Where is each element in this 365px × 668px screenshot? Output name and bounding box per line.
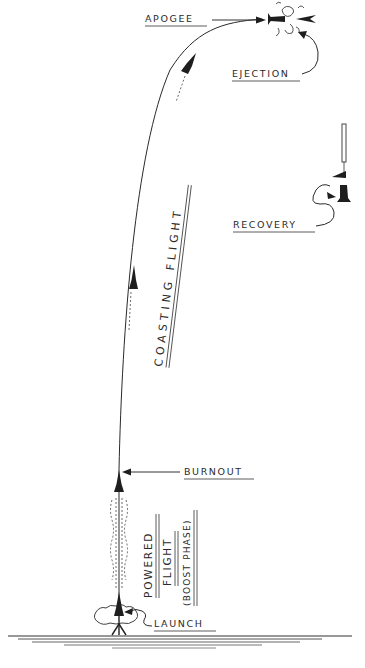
coasting-flight-label-group: COASTING FLIGHT bbox=[152, 183, 191, 368]
powered-label: POWERED bbox=[142, 532, 154, 598]
recovery-arrowhead-icon bbox=[327, 192, 336, 199]
ejection-arrow bbox=[302, 34, 318, 74]
launch-label: LAUNCH bbox=[154, 618, 203, 629]
rocket-upper-icon bbox=[176, 53, 196, 102]
ground-lines bbox=[8, 636, 352, 648]
rocket-burnout-icon bbox=[114, 470, 124, 492]
recovery-label: RECOVERY bbox=[233, 219, 297, 230]
boost-phase-label: (BOOST PHASE) bbox=[182, 519, 192, 606]
launch-arrowhead-icon bbox=[124, 608, 133, 615]
burnout-label: BURNOUT bbox=[184, 466, 243, 477]
burnout-arrowhead-icon bbox=[122, 469, 131, 476]
launch-arrow bbox=[130, 610, 152, 627]
launch-pad bbox=[112, 616, 126, 635]
coasting-flight-label: COASTING FLIGHT bbox=[152, 207, 184, 367]
powered-label-group: POWERED bbox=[142, 514, 159, 598]
apogee-label: APOGEE bbox=[145, 13, 194, 24]
ejection-label: EJECTION bbox=[232, 68, 289, 79]
recovery-arrow bbox=[313, 185, 334, 226]
flight-label-group: FLIGHT bbox=[161, 531, 178, 586]
recovery-rocket-icon bbox=[332, 124, 351, 202]
flight-label: FLIGHT bbox=[161, 538, 173, 586]
rocket-launch-icon bbox=[114, 592, 124, 616]
flight-profile-diagram: APOGEE EJECTION RECOVERY COASTING FLIGHT… bbox=[0, 0, 365, 668]
rocket-coasting-icon bbox=[129, 265, 138, 330]
boost-phase-label-group: (BOOST PHASE) bbox=[182, 510, 197, 606]
apogee-arrowhead-icon bbox=[256, 17, 266, 24]
